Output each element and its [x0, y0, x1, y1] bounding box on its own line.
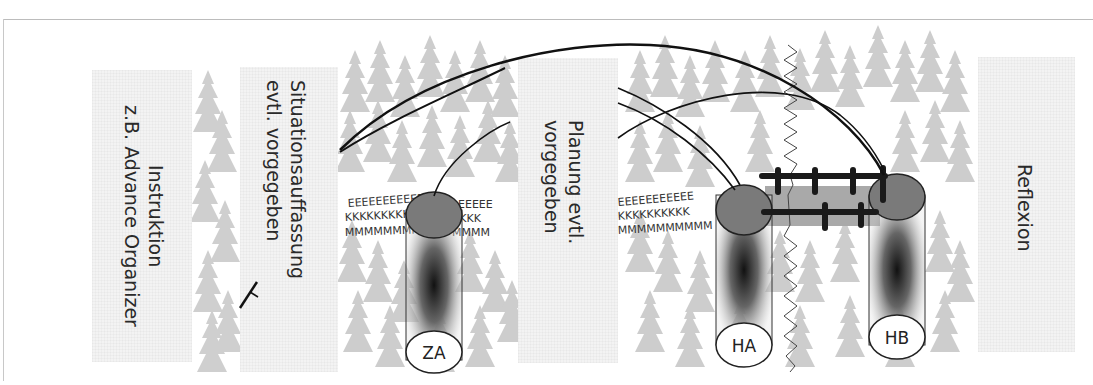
diagram-canvas: Instruktion z.B. Advance Organizer Situa… [0, 0, 1093, 385]
arc-planung-to-ha-2 [618, 103, 735, 190]
arc-outer [340, 44, 884, 175]
hb-label: HB [885, 328, 909, 348]
node-hb: HB [869, 174, 925, 359]
arc-to-hb [618, 92, 884, 170]
za-top [406, 192, 462, 238]
ha-label: HA [732, 336, 757, 356]
node-za: ZA [406, 192, 462, 373]
letter-band-ha: EEEEEEEEEEE KKKKKKKKKK MMMMMMMMMM [617, 189, 713, 237]
za-label: ZA [422, 343, 446, 363]
diagram-foreground: EEEEEEEEEEE KKKKKKKKKK MMMMMMMMMM EEEEE … [0, 0, 1093, 385]
arc-za [434, 122, 510, 196]
band-e-mid: EEEEE [458, 198, 493, 211]
